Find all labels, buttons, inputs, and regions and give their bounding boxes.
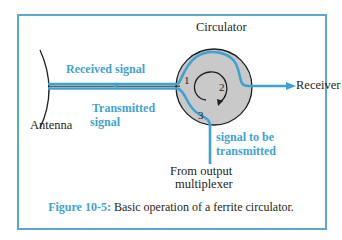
figure-number: Figure 10-5: bbox=[48, 200, 111, 214]
received-signal-label: Received signal bbox=[66, 63, 145, 75]
port-3-label: 3 bbox=[198, 110, 204, 121]
antenna-icon bbox=[40, 50, 49, 128]
receiver-label: Receiver bbox=[296, 79, 340, 92]
circulator-disk bbox=[176, 49, 252, 125]
port-1-label: 1 bbox=[184, 75, 190, 86]
figure-caption-text: Basic operation of a ferrite circulator. bbox=[111, 200, 294, 214]
transmitted-signal-label-2: signal bbox=[90, 116, 120, 128]
from-output-label-1: From output bbox=[170, 165, 232, 178]
figure-caption: Figure 10-5: Basic operation of a ferrit… bbox=[0, 200, 342, 215]
receiver-arrow-icon bbox=[286, 82, 296, 90]
port-2-label: 2 bbox=[219, 82, 225, 93]
from-output-label-2: multiplexer bbox=[175, 178, 233, 191]
antenna-label: Antenna bbox=[30, 119, 72, 132]
signal-to-be-label-2: transmitted bbox=[216, 145, 276, 157]
circulator-label: Circulator bbox=[196, 21, 247, 34]
transmitted-signal-label-1: Transmitted bbox=[92, 102, 155, 114]
signal-to-be-label-1: signal to be bbox=[216, 131, 274, 143]
